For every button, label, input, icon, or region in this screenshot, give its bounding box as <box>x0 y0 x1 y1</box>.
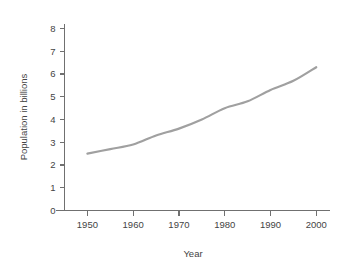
x-tick-label: 1980 <box>214 219 235 230</box>
y-tick-label: 5 <box>50 91 55 102</box>
y-axis-ticks <box>60 29 65 211</box>
y-axis-tick-labels: 012345678 <box>50 23 55 216</box>
x-axis-ticks <box>87 211 316 216</box>
y-tick-label: 1 <box>50 182 55 193</box>
population-line-chart-figure: 012345678 195019601970198019902000 Year … <box>0 0 350 274</box>
y-axis-title: Population in billions <box>18 73 29 160</box>
chart-canvas: 012345678 195019601970198019902000 Year … <box>0 0 350 274</box>
data-series-group <box>87 67 316 153</box>
x-tick-label: 1950 <box>77 219 98 230</box>
y-tick-label: 6 <box>50 68 55 79</box>
y-tick-label: 0 <box>50 205 55 216</box>
x-tick-label: 1960 <box>123 219 144 230</box>
y-tick-label: 3 <box>50 137 55 148</box>
y-tick-label: 2 <box>50 159 55 170</box>
y-tick-label: 7 <box>50 46 55 57</box>
y-tick-label: 4 <box>50 114 55 125</box>
series-line-world-population <box>87 67 316 153</box>
x-tick-label: 2000 <box>306 219 327 230</box>
x-axis-title: Year <box>183 248 202 259</box>
y-tick-label: 8 <box>50 23 55 34</box>
x-tick-label: 1970 <box>168 219 189 230</box>
x-tick-label: 1990 <box>260 219 281 230</box>
x-axis-tick-labels: 195019601970198019902000 <box>77 219 327 230</box>
